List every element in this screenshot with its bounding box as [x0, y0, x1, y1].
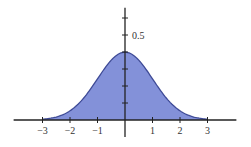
x-tick-label: 3: [205, 125, 210, 136]
x-tick-label: 1: [150, 125, 155, 136]
y-tick-label: 0.5: [132, 30, 145, 41]
x-axis-tick-labels: −3−2−1123: [37, 125, 210, 136]
normal-distribution-chart: −3−2−1123 0.5: [0, 0, 251, 147]
x-tick-label: 2: [178, 125, 183, 136]
x-tick-label: −2: [65, 125, 76, 136]
x-tick-label: −3: [37, 125, 48, 136]
x-tick-label: −1: [92, 125, 103, 136]
